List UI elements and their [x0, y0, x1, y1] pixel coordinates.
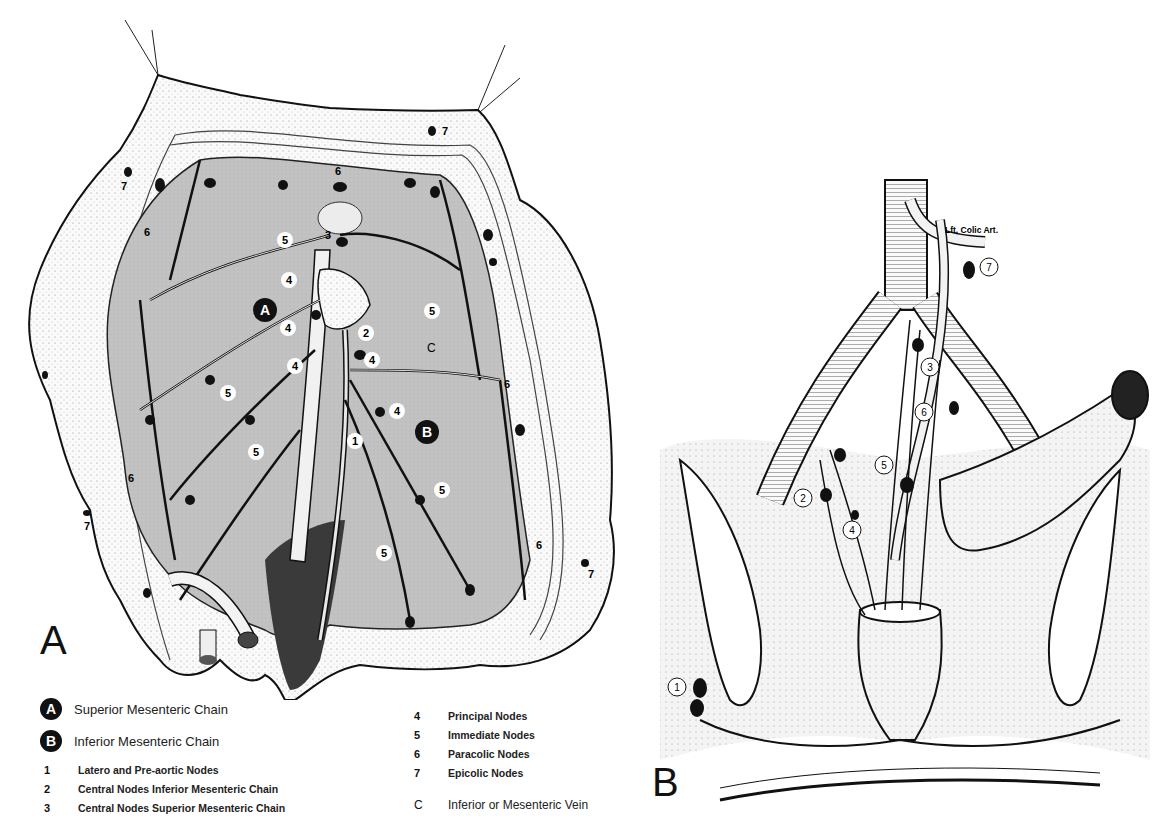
- svg-text:6: 6: [536, 539, 542, 551]
- svg-text:1: 1: [674, 682, 680, 693]
- left-colic-artery-label: Lft. Colic Art.: [945, 225, 998, 235]
- svg-text:6: 6: [128, 472, 134, 484]
- svg-text:7: 7: [986, 262, 992, 273]
- svg-text:7: 7: [588, 568, 594, 580]
- legend-node-2: 2 Central Nodes Inferior Mesenteric Chai…: [44, 783, 278, 795]
- svg-text:7: 7: [442, 125, 448, 137]
- svg-text:7: 7: [121, 180, 127, 192]
- svg-text:6: 6: [921, 407, 927, 418]
- panel-letter-b: B: [652, 760, 679, 805]
- svg-text:5: 5: [282, 234, 288, 246]
- svg-text:5: 5: [381, 547, 387, 559]
- marker-b-icon: B: [40, 730, 62, 752]
- legend-inferior-chain: B Inferior Mesenteric Chain: [40, 730, 219, 752]
- vein-c-label: C: [427, 341, 436, 355]
- legend-node-5: 5 Immediate Nodes: [414, 729, 535, 741]
- svg-text:5: 5: [225, 387, 231, 399]
- figure-b-rectal-lymphatics: Lft. Colic Art. 1 2 3 4 5 6 7 B: [640, 160, 1167, 834]
- svg-text:4: 4: [394, 405, 401, 417]
- legend-vein-c: C Inferior or Mesenteric Vein: [414, 798, 588, 812]
- svg-text:5: 5: [253, 446, 259, 458]
- svg-text:B: B: [422, 424, 432, 440]
- marker-inferior-chain: B: [415, 420, 439, 444]
- rectum-illustration: Lft. Colic Art. 1 2 3 4 5 6 7: [640, 160, 1167, 834]
- svg-text:6: 6: [144, 226, 150, 238]
- marker-a-icon: A: [40, 698, 62, 720]
- svg-text:5: 5: [429, 305, 435, 317]
- svg-text:4: 4: [292, 360, 299, 372]
- svg-text:3: 3: [325, 229, 331, 241]
- panel-letter-a: A: [40, 618, 67, 663]
- svg-text:5: 5: [881, 460, 887, 471]
- legend-node-7: 7 Epicolic Nodes: [414, 767, 523, 779]
- svg-text:2: 2: [363, 327, 369, 339]
- legend-superior-chain: A Superior Mesenteric Chain: [40, 698, 228, 720]
- legend-node-6: 6 Paracolic Nodes: [414, 748, 530, 760]
- colon-illustration: A B 1 2 3 4 4 4 4 4 5 5 5 5 5 5 6 6 6 6 …: [0, 0, 640, 700]
- legend-node-3: 3 Central Nodes Superior Mesenteric Chai…: [44, 802, 285, 814]
- legend-node-1: 1 Latero and Pre-aortic Nodes: [44, 764, 219, 776]
- svg-text:4: 4: [286, 274, 293, 286]
- svg-text:3: 3: [927, 362, 933, 373]
- figure-a-colon-lymphatics: A B 1 2 3 4 4 4 4 4 5 5 5 5 5 5 6 6 6 6 …: [0, 0, 640, 700]
- svg-text:A: A: [260, 302, 270, 318]
- svg-text:6: 6: [504, 378, 510, 390]
- svg-text:4: 4: [285, 322, 292, 334]
- marker-superior-chain: A: [253, 298, 277, 322]
- svg-text:4: 4: [369, 354, 376, 366]
- svg-text:6: 6: [335, 165, 341, 177]
- svg-text:5: 5: [439, 484, 445, 496]
- svg-text:4: 4: [849, 525, 855, 536]
- legend-node-4: 4 Principal Nodes: [414, 710, 527, 722]
- svg-text:7: 7: [84, 520, 90, 532]
- svg-text:2: 2: [800, 493, 806, 504]
- svg-text:1: 1: [352, 435, 358, 447]
